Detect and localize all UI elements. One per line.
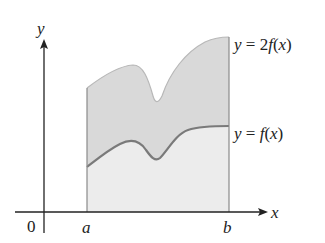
origin-label: 0 <box>27 217 36 236</box>
x-axis-label: x <box>270 203 279 222</box>
label-f: y = f(x) <box>232 124 283 143</box>
label-2f: y = 2f(x) <box>232 35 292 54</box>
b-label: b <box>223 218 232 237</box>
area-diagram: y x 0 a b y = 2f(x) y = f(x) <box>0 0 325 243</box>
y-axis-label: y <box>35 19 45 38</box>
a-label: a <box>82 218 91 237</box>
